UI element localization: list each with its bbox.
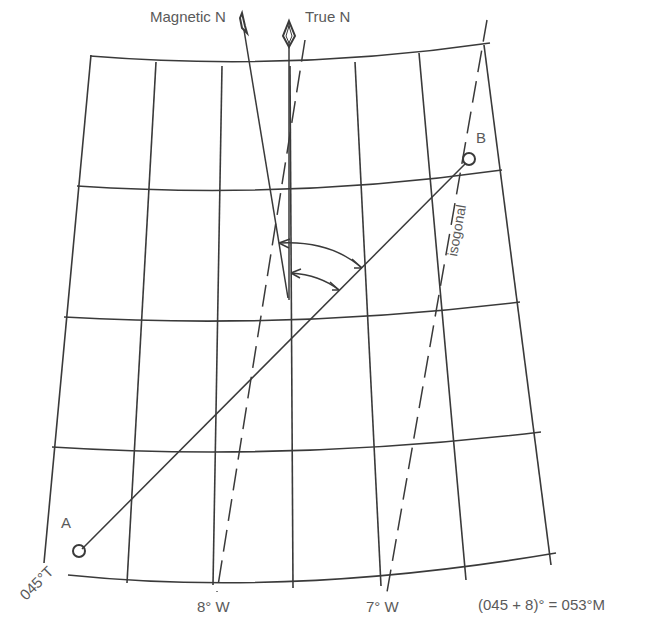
meridian-7w (355, 62, 381, 586)
isogonal-line-east (387, 20, 487, 592)
true-north-arrow (283, 21, 295, 300)
meridian-6 (419, 53, 466, 580)
meridian-8w (213, 66, 222, 585)
meridian-grid (44, 45, 551, 588)
point-a-label: A (61, 514, 71, 531)
isogonal-label: isogonal (444, 203, 469, 257)
meridian-7w-label: 7° W (366, 598, 400, 615)
meridian-4 (290, 66, 293, 588)
magnetic-north-label: Magnetic N (150, 8, 226, 25)
point-b-label: B (476, 129, 486, 146)
meridian-2 (127, 62, 156, 583)
magnetic-north-arrow (240, 13, 288, 298)
isogonal-lines (217, 20, 487, 592)
formula-label: (045 + 8)° = 053°M (478, 596, 605, 613)
chart-diagram: Magnetic N True N B A isogonal 045°T 8° … (0, 0, 647, 625)
meridian-1 (44, 55, 91, 563)
true-north-label: True N (305, 8, 350, 25)
true-angle-arc (291, 273, 339, 290)
true-bearing-label: 045°T (16, 563, 56, 603)
point-b-marker (463, 153, 475, 165)
meridian-8w-label: 8° W (197, 598, 231, 615)
parallel-5 (68, 553, 556, 583)
point-a-marker (73, 545, 85, 557)
parallel-4 (52, 432, 541, 452)
parallel-grid (52, 43, 556, 583)
magnetic-north-needle-icon (240, 13, 247, 33)
magnetic-north-line (244, 30, 288, 298)
